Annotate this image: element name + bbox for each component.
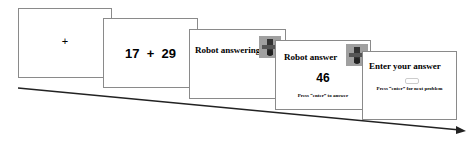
answer-input[interactable] [405, 78, 419, 84]
fixation-cross: + [19, 35, 111, 47]
robot-answer-title: Robot answer [284, 52, 337, 62]
robot-answering-title: Robot answering [195, 45, 260, 55]
enter-answer-screen: Enter your answer Press “enter” for next… [362, 51, 457, 120]
problem-screen: 17 + 29 [103, 18, 198, 88]
math-problem: 17 + 29 [104, 46, 197, 61]
enter-answer-title: Enter your answer [369, 61, 441, 71]
robot-answering-screen: Robot answering [189, 29, 286, 99]
robot-answer-value: 46 [276, 71, 370, 85]
robot-answer-screen: Robot answer 46 Press “enter” to answer [275, 40, 371, 110]
fixation-screen: + [18, 8, 112, 78]
next-problem-instruction: Press “enter” for next problem [363, 86, 456, 91]
robot-answer-instruction: Press “enter” to answer [276, 93, 370, 98]
